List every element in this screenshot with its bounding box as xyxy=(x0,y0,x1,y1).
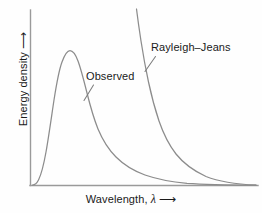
rayleigh-jeans-leader-line xyxy=(145,57,156,72)
lambda-symbol: λ xyxy=(151,192,156,206)
rayleigh-jeans-label: Rayleigh–Jeans xyxy=(151,41,231,53)
planck-observed-curve xyxy=(33,51,257,186)
y-axis-title-text: Energy density xyxy=(17,52,29,126)
y-axis-title: Energy density ⟶ xyxy=(16,4,30,154)
x-axis-title-text: Wavelength, xyxy=(86,193,148,205)
plot-canvas xyxy=(0,0,262,213)
y-axis-arrow-icon: ⟶ xyxy=(16,32,30,49)
blackbody-radiation-figure: Rayleigh–Jeans Observed Wavelength, λ ⟶ … xyxy=(0,0,262,213)
observed-label: Observed xyxy=(86,70,135,82)
x-axis-title: Wavelength, λ ⟶ xyxy=(0,192,262,206)
x-axis-arrow-icon: ⟶ xyxy=(159,192,176,206)
rayleigh-jeans-curve xyxy=(137,9,257,185)
